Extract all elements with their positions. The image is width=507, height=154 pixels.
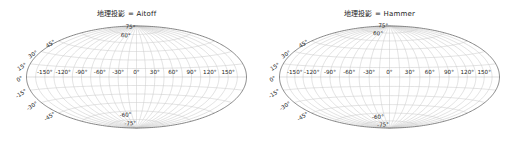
x-tick-label-9: 120° [203, 69, 217, 75]
y-tick-label-1: 60° [373, 30, 383, 36]
x-tick-label-8: 90° [187, 69, 197, 75]
x-tick-label-4: -30° [363, 69, 375, 75]
x-tick-label-3: -60° [94, 69, 106, 75]
x-tick-label-6: 30° [150, 69, 160, 75]
x-tick-label-10: 150° [221, 69, 235, 75]
y-tick-label-6: -15° [267, 88, 280, 100]
y-tick-label-5: 0° [15, 75, 24, 84]
y-tick-label-8: -45° [296, 111, 309, 123]
y-tick-label-3: 30° [27, 49, 39, 59]
subplot-hammer: 地理投影 = Hammer -150°-120°-90°-60°-30°0°30… [253, 0, 506, 154]
x-tick-label-1: -120° [55, 69, 71, 75]
y-tick-label-1: 60° [121, 32, 131, 38]
y-tick-label-10: -75° [377, 121, 389, 128]
x-tick-label-2: -90° [76, 69, 88, 75]
x-tick-label-0: -150° [287, 69, 303, 75]
y-tick-label-4: 15° [16, 61, 28, 71]
x-tick-label-6: 30° [405, 69, 415, 75]
y-tick-label-9: -60° [120, 111, 132, 118]
subplot-aitoff: 地理投影 = Aitoff -150°-120°-90°-60°-30°0°30… [0, 0, 253, 154]
y-tick-label-7: -30° [25, 100, 38, 112]
y-tick-label-4: 15° [269, 61, 281, 71]
y-tick-label-9: -60° [372, 114, 384, 120]
y-tick-label-8: -45° [43, 111, 56, 123]
x-tick-label-2: -90° [324, 69, 336, 75]
x-tick-label-3: -60° [343, 69, 355, 75]
x-tick-label-0: -150° [37, 69, 53, 75]
y-tick-label-2: 45° [45, 38, 57, 48]
x-tick-label-1: -120° [304, 69, 320, 75]
x-tick-label-5: 0° [133, 69, 140, 75]
figure-canvas: 地理投影 = Aitoff -150°-120°-90°-60°-30°0°30… [0, 0, 507, 154]
x-tick-label-9: 120° [461, 69, 475, 75]
y-tick-label-3: 30° [280, 49, 292, 59]
y-tick-label-6: -15° [14, 88, 27, 100]
x-tick-label-5: 0° [386, 69, 393, 75]
x-tick-label-4: -30° [112, 69, 124, 75]
projection-plot-hammer: -150°-120°-90°-60°-30°0°30°60°90°120°150… [253, 0, 506, 154]
x-tick-label-10: 150° [477, 69, 491, 75]
y-tick-label-10: -75° [124, 120, 136, 127]
y-tick-label-5: 0° [268, 75, 277, 84]
y-tick-label-7: -30° [278, 100, 291, 112]
x-tick-label-8: 90° [444, 69, 454, 75]
y-tick-label-0: 75° [125, 24, 135, 31]
x-tick-label-7: 60° [425, 69, 435, 75]
projection-plot-aitoff: -150°-120°-90°-60°-30°0°30°60°90°120°150… [0, 0, 253, 154]
x-tick-label-7: 60° [168, 69, 178, 75]
y-tick-label-0: 75° [378, 22, 388, 28]
